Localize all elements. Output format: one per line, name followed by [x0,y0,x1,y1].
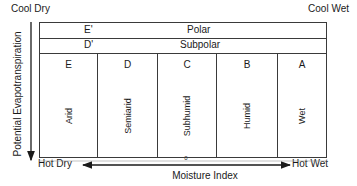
column-name: Humid [242,103,252,129]
column-code: C [158,59,216,71]
column-code: D [98,59,157,71]
column-wet: A Wet [278,54,326,157]
y-axis-label: Potential Evapotranspiration [12,31,23,156]
row-code: D' [84,39,93,51]
column-name: Arid [64,108,74,124]
column-subhumid: C Subhumid [158,54,217,157]
column-code: B [217,59,277,71]
climate-classification-grid: E' Polar D' Subpolar E Arid D Semiarid C… [39,22,327,158]
column-name: Semiarid [123,98,133,134]
row-code: E' [84,24,93,36]
column-code: E [40,59,97,71]
column-name: Wet [297,108,307,124]
column-code: A [278,59,326,71]
column-arid: E Arid [40,54,98,157]
row-subpolar: D' Subpolar [40,38,326,54]
column-semiarid: D Semiarid [98,54,158,157]
row-name: Polar [187,24,210,36]
x-axis-label: Moisture Index [172,170,238,181]
column-humid: B Humid [217,54,278,157]
column-name: Subhumid [182,96,192,137]
row-name: Subpolar [180,39,220,51]
row-polar: E' Polar [40,23,326,39]
